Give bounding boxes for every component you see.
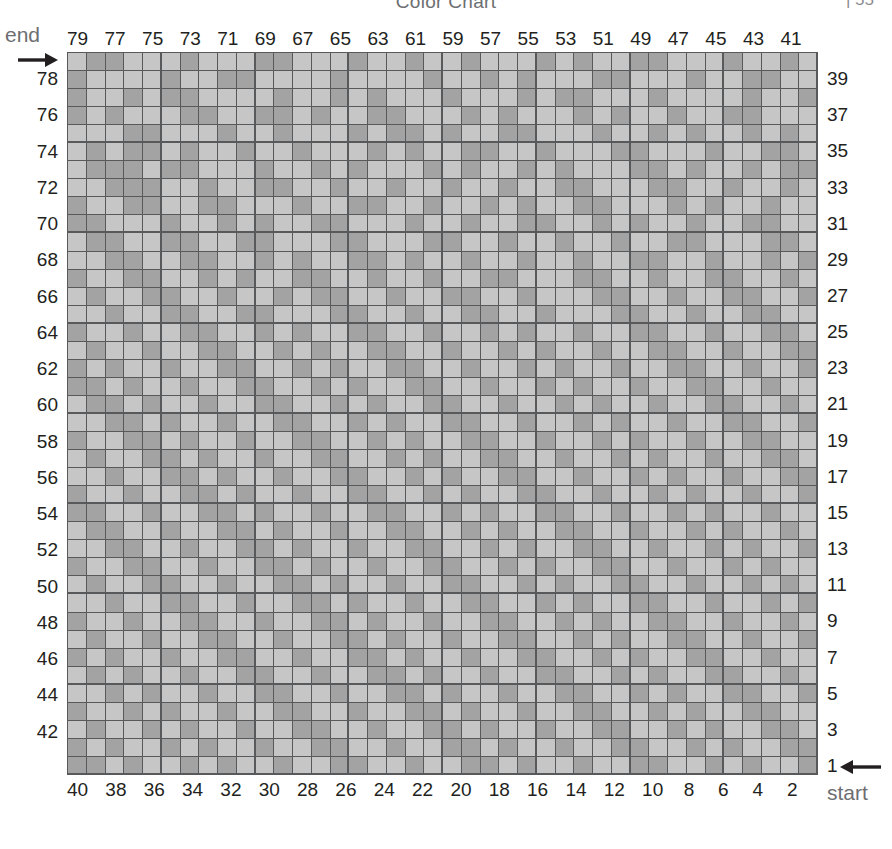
grid-cell[interactable] [706, 757, 725, 775]
grid-cell[interactable] [106, 631, 125, 649]
grid-cell[interactable] [199, 324, 218, 342]
grid-cell[interactable] [612, 233, 631, 251]
grid-cell[interactable] [724, 125, 743, 143]
grid-cell[interactable] [631, 71, 650, 89]
grid-cell[interactable] [293, 631, 312, 649]
grid-cell[interactable] [462, 179, 481, 197]
grid-cell[interactable] [668, 649, 687, 667]
grid-cell[interactable] [162, 414, 181, 432]
grid-cell[interactable] [762, 522, 781, 540]
grid-cell[interactable] [237, 161, 256, 179]
grid-cell[interactable] [274, 468, 293, 486]
grid-cell[interactable] [387, 270, 406, 288]
grid-cell[interactable] [706, 71, 725, 89]
grid-cell[interactable] [762, 306, 781, 324]
grid-cell[interactable] [762, 721, 781, 739]
grid-cell[interactable] [256, 703, 275, 721]
grid-cell[interactable] [68, 252, 87, 270]
grid-cell[interactable] [687, 576, 706, 594]
grid-cell[interactable] [443, 685, 462, 703]
grid-cell[interactable] [124, 324, 143, 342]
grid-cell[interactable] [312, 685, 331, 703]
grid-cell[interactable] [799, 649, 818, 667]
grid-cell[interactable] [668, 558, 687, 576]
grid-cell[interactable] [593, 252, 612, 270]
grid-cell[interactable] [406, 125, 425, 143]
grid-cell[interactable] [724, 540, 743, 558]
grid-cell[interactable] [781, 71, 800, 89]
grid-cell[interactable] [706, 667, 725, 685]
grid-cell[interactable] [799, 270, 818, 288]
grid-cell[interactable] [537, 179, 556, 197]
grid-cell[interactable] [143, 522, 162, 540]
grid-cell[interactable] [87, 504, 106, 522]
grid-cell[interactable] [499, 594, 518, 612]
grid-cell[interactable] [743, 522, 762, 540]
grid-cell[interactable] [574, 486, 593, 504]
grid-cell[interactable] [574, 396, 593, 414]
grid-cell[interactable] [687, 703, 706, 721]
grid-cell[interactable] [612, 215, 631, 233]
grid-cell[interactable] [706, 107, 725, 125]
grid-cell[interactable] [593, 270, 612, 288]
grid-cell[interactable] [612, 324, 631, 342]
grid-cell[interactable] [743, 631, 762, 649]
grid-cell[interactable] [237, 667, 256, 685]
grid-cell[interactable] [574, 757, 593, 775]
grid-cell[interactable] [368, 378, 387, 396]
grid-cell[interactable] [199, 71, 218, 89]
grid-cell[interactable] [762, 468, 781, 486]
grid-cell[interactable] [106, 342, 125, 360]
grid-cell[interactable] [593, 306, 612, 324]
grid-cell[interactable] [612, 360, 631, 378]
grid-cell[interactable] [481, 450, 500, 468]
grid-cell[interactable] [781, 721, 800, 739]
grid-cell[interactable] [518, 288, 537, 306]
grid-cell[interactable] [743, 143, 762, 161]
grid-cell[interactable] [706, 324, 725, 342]
grid-cell[interactable] [649, 215, 668, 233]
grid-cell[interactable] [537, 107, 556, 125]
grid-cell[interactable] [649, 125, 668, 143]
grid-cell[interactable] [612, 757, 631, 775]
grid-cell[interactable] [574, 342, 593, 360]
grid-cell[interactable] [199, 252, 218, 270]
grid-cell[interactable] [724, 703, 743, 721]
grid-cell[interactable] [349, 540, 368, 558]
grid-cell[interactable] [406, 576, 425, 594]
grid-cell[interactable] [181, 233, 200, 251]
grid-cell[interactable] [387, 703, 406, 721]
grid-cell[interactable] [218, 594, 237, 612]
grid-cell[interactable] [312, 288, 331, 306]
grid-cell[interactable] [181, 360, 200, 378]
grid-cell[interactable] [406, 631, 425, 649]
grid-cell[interactable] [331, 685, 350, 703]
grid-cell[interactable] [537, 270, 556, 288]
grid-cell[interactable] [649, 107, 668, 125]
grid-cell[interactable] [68, 233, 87, 251]
grid-cell[interactable] [87, 107, 106, 125]
grid-cell[interactable] [312, 432, 331, 450]
grid-cell[interactable] [743, 288, 762, 306]
grid-cell[interactable] [237, 215, 256, 233]
grid-cell[interactable] [181, 721, 200, 739]
grid-cell[interactable] [724, 179, 743, 197]
grid-cell[interactable] [218, 703, 237, 721]
grid-cell[interactable] [406, 233, 425, 251]
grid-cell[interactable] [87, 125, 106, 143]
grid-cell[interactable] [537, 540, 556, 558]
grid-cell[interactable] [199, 360, 218, 378]
grid-cell[interactable] [349, 233, 368, 251]
grid-cell[interactable] [649, 396, 668, 414]
grid-cell[interactable] [406, 270, 425, 288]
grid-cell[interactable] [218, 107, 237, 125]
grid-cell[interactable] [199, 613, 218, 631]
grid-cell[interactable] [368, 71, 387, 89]
grid-cell[interactable] [481, 107, 500, 125]
grid-cell[interactable] [781, 757, 800, 775]
grid-cell[interactable] [106, 89, 125, 107]
grid-cell[interactable] [556, 685, 575, 703]
grid-cell[interactable] [181, 432, 200, 450]
grid-cell[interactable] [68, 450, 87, 468]
grid-cell[interactable] [462, 703, 481, 721]
